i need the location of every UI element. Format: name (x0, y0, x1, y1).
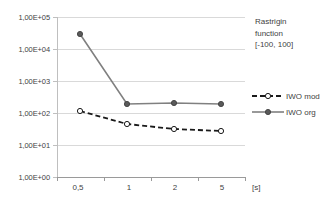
y-axis-tick-label: 1,00E+01 (0, 141, 50, 150)
chart-annotation: Rastrigin function [-100, 100] (255, 16, 331, 51)
x-axis-unit-label: [s] (252, 183, 260, 192)
gridline (57, 81, 245, 82)
y-axis-line (57, 17, 58, 178)
y-axis-tick-label: 1,00E+00 (0, 173, 50, 182)
gridline (57, 145, 245, 146)
legend-swatch-dashed-open-circle-icon (252, 90, 284, 102)
x-axis-tick-mark (104, 177, 105, 181)
legend-swatch-solid-filled-circle-icon (252, 106, 284, 118)
x-axis-tick-mark (245, 177, 246, 181)
gridline (57, 49, 245, 50)
annotation-line: Rastrigin (255, 16, 331, 28)
y-axis-tick-label: 1,00E+03 (0, 77, 50, 86)
annotation-line: [-100, 100] (255, 39, 331, 51)
chart-legend: IWO mod IWO org (252, 88, 332, 120)
gridline (57, 17, 245, 18)
x-axis-tick-label: 1 (114, 183, 144, 192)
y-axis-tick-label: 1,00E+02 (0, 109, 50, 118)
x-axis-tick-mark (198, 177, 199, 181)
y-axis-tick-label: 1,00E+05 (0, 13, 50, 22)
chart-container: 1,00E+05 1,00E+04 1,00E+03 1,00E+02 1,00… (0, 0, 332, 207)
y-axis-tick-label: 1,00E+04 (0, 45, 50, 54)
x-axis-tick-label: 5 (207, 183, 237, 192)
legend-item-iwo-mod: IWO mod (252, 88, 332, 104)
x-axis-tick-label: 0,5 (63, 183, 93, 192)
plot-area (57, 17, 245, 177)
gridline (57, 113, 245, 114)
annotation-line: function (255, 28, 331, 40)
x-axis-tick-mark (57, 177, 58, 181)
legend-label-iwo-org: IWO org (286, 108, 316, 117)
x-axis-tick-label: 2 (160, 183, 190, 192)
legend-item-iwo-org: IWO org (252, 104, 332, 120)
x-axis-tick-mark (151, 177, 152, 181)
legend-label-iwo-mod: IWO mod (286, 92, 320, 101)
